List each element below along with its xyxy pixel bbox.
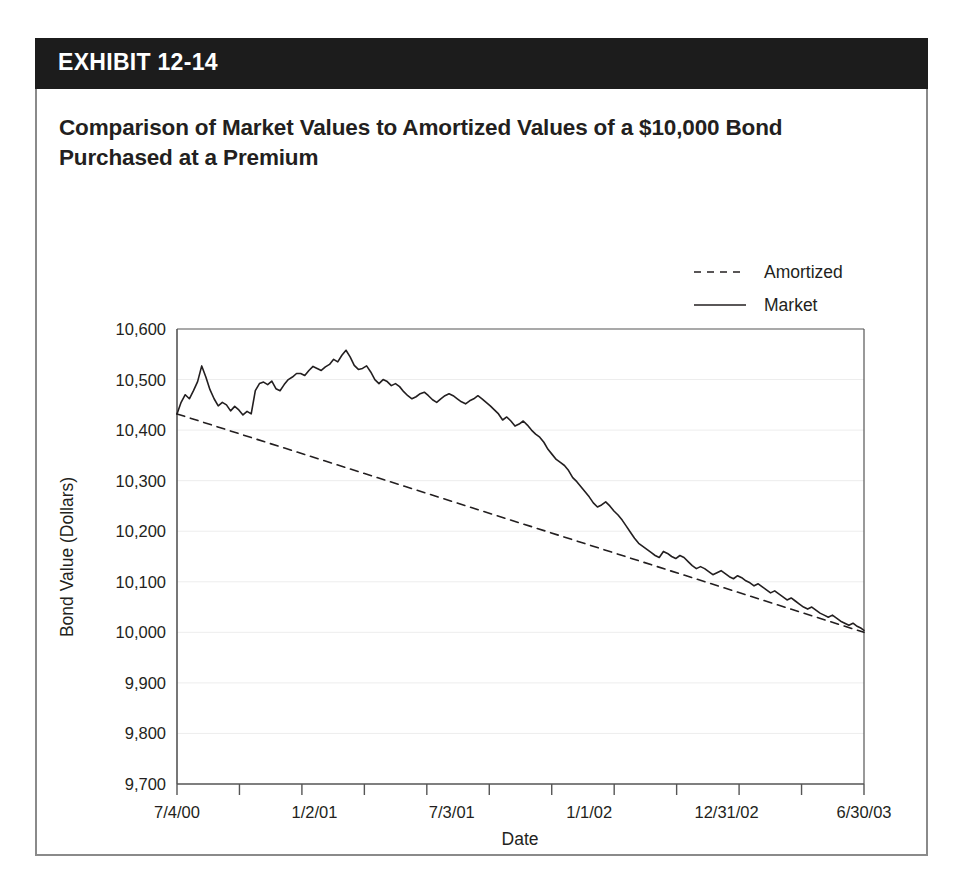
legend-label-market: Market (764, 295, 818, 315)
chart-legend: Amortized Market (694, 262, 843, 315)
gridlines (177, 380, 864, 734)
x-tick-label: 6/30/03 (836, 803, 891, 821)
y-axis-ticks: 9,7009,8009,90010,00010,10010,20010,3001… (116, 320, 166, 793)
y-tick-label: 10,400 (116, 421, 166, 439)
x-tick-label: 1/2/01 (291, 803, 337, 821)
x-tick-label: 1/1/02 (566, 803, 612, 821)
series-line-amortized (177, 414, 864, 632)
series-line-market (177, 350, 864, 630)
exhibit-body: Comparison of Market Values to Amortized… (35, 89, 928, 856)
y-tick-label: 9,900 (125, 674, 166, 692)
plot-axes (177, 329, 864, 784)
legend-entry-amortized: Amortized (694, 262, 843, 282)
x-tick-label: 12/31/02 (694, 803, 758, 821)
y-axis-title: Bond Value (Dollars) (57, 477, 77, 637)
y-tick-label: 10,500 (116, 371, 166, 389)
x-axis-title: Date (502, 829, 539, 849)
bond-value-line-chart: 9,7009,8009,90010,00010,10010,20010,3001… (37, 89, 926, 856)
y-tick-label: 10,300 (116, 472, 166, 490)
y-tick-label: 10,000 (116, 623, 166, 641)
x-tick-label: 7/4/00 (154, 803, 200, 821)
legend-label-amortized: Amortized (764, 262, 843, 282)
exhibit-header-bar: EXHIBIT 12-14 (35, 38, 928, 89)
exhibit-frame: EXHIBIT 12-14 Comparison of Market Value… (35, 38, 928, 856)
y-tick-label: 10,600 (116, 320, 166, 338)
x-tick-label: 7/3/01 (429, 803, 475, 821)
y-tick-label: 9,800 (125, 724, 166, 742)
y-tick-label: 10,200 (116, 522, 166, 540)
exhibit-number-label: EXHIBIT 12-14 (58, 49, 218, 76)
x-axis-ticks: 7/4/001/2/017/3/011/1/0212/31/026/30/03 (154, 784, 891, 821)
data-series-layer (177, 350, 864, 632)
legend-entry-market: Market (694, 295, 818, 315)
y-tick-label: 10,100 (116, 573, 166, 591)
y-tick-label: 9,700 (125, 775, 166, 793)
